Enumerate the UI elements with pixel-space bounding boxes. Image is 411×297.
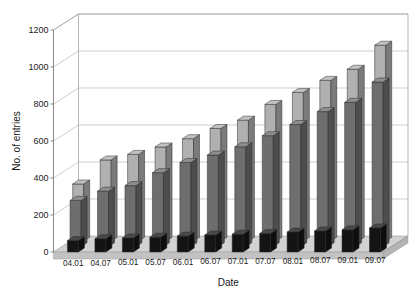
bar-front-face <box>122 238 133 252</box>
bar-side-face <box>353 226 359 252</box>
bar-side-face <box>380 224 386 252</box>
x-tick-label-05.01: 05.01 <box>118 258 139 267</box>
y-tick-label-400: 400 <box>33 173 48 183</box>
x-tick-label-06.07: 06.07 <box>200 257 221 266</box>
y-tick-label-1200: 1200 <box>28 25 48 35</box>
bar-front-face <box>342 230 353 252</box>
bar-side-face <box>326 227 332 252</box>
bar-front-face <box>372 82 383 247</box>
x-tick-label-06.01: 06.01 <box>173 258 194 267</box>
bar <box>205 231 222 252</box>
x-tick-label-09.01: 09.01 <box>338 256 359 265</box>
bar <box>122 234 139 252</box>
gridline-depth-1000 <box>54 51 79 67</box>
bar <box>369 224 386 252</box>
bar-front-face <box>67 241 78 252</box>
y-tick-label-1000: 1000 <box>28 62 48 72</box>
bar-front-face <box>369 228 380 252</box>
gridline-depth-600 <box>54 125 79 141</box>
x-tick-label-07.01: 07.01 <box>228 257 249 266</box>
bar-side-face <box>356 98 362 246</box>
bar <box>342 226 359 252</box>
bar-front-face <box>177 236 188 252</box>
bar <box>345 98 362 246</box>
gridline-depth-800 <box>54 88 79 104</box>
bar <box>317 108 334 247</box>
y-tick-label-800: 800 <box>33 99 48 109</box>
bar <box>67 237 84 252</box>
bar <box>315 227 332 252</box>
x-axis-title: Date <box>218 277 240 288</box>
x-tick-label-05.07: 05.07 <box>145 258 166 267</box>
bar-front-face <box>260 234 271 253</box>
bar <box>95 235 112 252</box>
bar-front-face <box>95 239 106 252</box>
bar <box>177 232 194 252</box>
bar-front-face <box>315 231 326 252</box>
y-tick-label-600: 600 <box>33 136 48 146</box>
bar <box>232 230 249 252</box>
bar-front-face <box>205 235 216 252</box>
bar <box>287 228 304 252</box>
x-tick-label-04.07: 04.07 <box>90 259 111 268</box>
y-axis-ticks: 120010008006004002000 <box>28 25 53 257</box>
bar-front-face <box>150 237 161 252</box>
bar-chart-3d: 120010008006004002000No. of entries04.01… <box>0 0 411 297</box>
x-tick-label-08.07: 08.07 <box>310 256 331 265</box>
bar-front-face <box>345 102 356 246</box>
bar-side-face <box>328 108 334 247</box>
y-tick-label-0: 0 <box>43 247 48 257</box>
x-tick-label-04.01: 04.01 <box>63 259 84 268</box>
bar-front-face <box>232 234 243 252</box>
x-tick-label-08.01: 08.01 <box>283 257 304 266</box>
top-left-depth-edge <box>54 14 79 30</box>
x-tick-label-07.07: 07.07 <box>255 257 276 266</box>
bar-side-face <box>301 121 307 247</box>
bar-side-face <box>383 78 389 247</box>
y-tick-label-200: 200 <box>33 210 48 220</box>
bar <box>372 78 389 247</box>
bar <box>260 230 277 253</box>
bar-front-face <box>287 232 298 252</box>
y-axis-title: No. of entries <box>11 111 22 170</box>
chart-container: 120010008006004002000No. of entries04.01… <box>0 0 411 297</box>
gridline-depth-400 <box>54 162 79 178</box>
bar <box>150 233 167 252</box>
x-tick-label-09.07: 09.07 <box>365 256 386 265</box>
bar-front-face <box>317 112 328 247</box>
